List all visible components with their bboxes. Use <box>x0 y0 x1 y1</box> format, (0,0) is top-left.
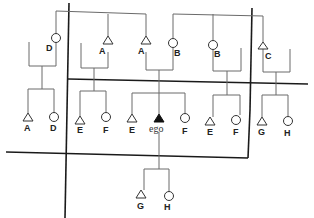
male-symbol-icon <box>258 42 268 49</box>
ego-symbol-icon <box>154 114 164 122</box>
label-D: D <box>46 43 53 53</box>
male-symbol-icon <box>141 36 151 44</box>
label-F: F <box>233 127 239 137</box>
female-symbol-icon <box>52 34 61 43</box>
divider-vertical-left <box>65 3 69 218</box>
label-A: A <box>24 123 31 133</box>
label-H: H <box>284 128 291 138</box>
label-B: B <box>214 49 221 59</box>
male-symbol-icon <box>103 36 113 44</box>
male-symbol-icon <box>75 116 85 124</box>
male-symbol-icon <box>127 114 137 122</box>
male-symbol-icon <box>136 190 146 198</box>
female-symbol-icon <box>169 39 178 48</box>
label-ego: ego <box>149 123 163 134</box>
label-E: E <box>77 125 83 135</box>
female-symbol-icon <box>181 114 190 123</box>
label-C: C <box>265 51 272 61</box>
generation-0: A D E F E ego F E F G H <box>23 113 293 139</box>
female-symbol-icon <box>165 192 174 201</box>
top-sibling-links <box>56 11 263 42</box>
label-G: G <box>258 127 265 137</box>
female-symbol-icon <box>50 113 59 122</box>
female-symbol-icon <box>284 117 293 126</box>
label-E: E <box>129 125 135 135</box>
label-G: G <box>137 201 144 211</box>
divider-horizontal-lower <box>6 152 248 158</box>
divider-horizontal-upper <box>68 79 308 84</box>
label-B: B <box>174 48 181 58</box>
label-A: A <box>138 46 145 56</box>
label-F: F <box>103 125 109 135</box>
kinship-diagram: D A A B B C A D E F E ego F E F G <box>0 0 314 218</box>
divider-vertical-right-upper <box>250 8 252 110</box>
female-symbol-icon <box>232 116 241 125</box>
divider-vertical-right-lower <box>248 110 250 158</box>
male-symbol-icon <box>205 117 215 125</box>
female-symbol-icon <box>102 113 111 122</box>
male-symbol-icon <box>257 117 267 125</box>
male-symbol-icon <box>23 113 33 121</box>
label-D: D <box>50 123 57 133</box>
generation-plus-1: D A A B B C <box>46 34 272 62</box>
label-A: A <box>99 46 106 56</box>
label-E: E <box>207 127 213 137</box>
generation-minus-1: G H <box>136 190 174 212</box>
label-H: H <box>164 202 171 212</box>
label-F: F <box>182 126 188 136</box>
